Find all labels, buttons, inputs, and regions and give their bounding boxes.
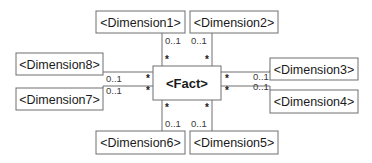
- dimension-label-2: <Dimension2>: [194, 16, 275, 30]
- multiplicity-dim2: 0..1: [191, 35, 207, 46]
- dimension-entity-2[interactable]: <Dimension2>: [190, 11, 278, 33]
- multiplicity-dim6: 0..1: [165, 118, 181, 129]
- dimension-entity-5[interactable]: <Dimension5>: [190, 131, 278, 154]
- fact-multiplicity-dim1: *: [165, 54, 169, 65]
- multiplicity-dim4: 0..1: [253, 81, 269, 92]
- fact-multiplicity-dim7: *: [146, 85, 150, 96]
- multiplicity-dim7: 0..1: [106, 85, 122, 96]
- dimension-entity-6[interactable]: <Dimension6>: [96, 131, 185, 154]
- fact-multiplicity-dim6: *: [165, 102, 169, 113]
- fact-multiplicity-dim3: *: [225, 73, 229, 84]
- dimension-label-3: <Dimension3>: [274, 63, 355, 77]
- dimension-label-4: <Dimension4>: [274, 95, 355, 109]
- dimension-entity-7[interactable]: <Dimension7>: [16, 88, 103, 110]
- fact-label: <Fact>: [166, 76, 208, 91]
- dimension-entity-8[interactable]: <Dimension8>: [16, 53, 103, 75]
- dimension-label-6: <Dimension6>: [100, 136, 181, 150]
- multiplicity-dim5: 0..1: [191, 118, 207, 129]
- fact-multiplicity-dim4: *: [225, 85, 229, 96]
- multiplicity-dim1: 0..1: [165, 35, 181, 46]
- dimension-label-1: <Dimension1>: [100, 16, 181, 30]
- dimension-label-7: <Dimension7>: [19, 93, 100, 107]
- dimension-label-8: <Dimension8>: [19, 58, 100, 72]
- multiplicity-dim8: 0..1: [106, 73, 122, 84]
- dimension-label-5: <Dimension5>: [194, 136, 275, 150]
- dimension-entity-4[interactable]: <Dimension4>: [270, 90, 358, 113]
- fact-multiplicity-dim5: *: [205, 102, 209, 113]
- fact-entity[interactable]: <Fact>: [153, 66, 221, 100]
- dimension-entity-3[interactable]: <Dimension3>: [270, 58, 358, 80]
- fact-multiplicity-dim2: *: [205, 54, 209, 65]
- star-schema-diagram: <Fact> <Dimension1> <Dimension2> <Dimens…: [0, 0, 372, 163]
- dimension-entity-1[interactable]: <Dimension1>: [96, 11, 185, 33]
- fact-multiplicity-dim8: *: [146, 73, 150, 84]
